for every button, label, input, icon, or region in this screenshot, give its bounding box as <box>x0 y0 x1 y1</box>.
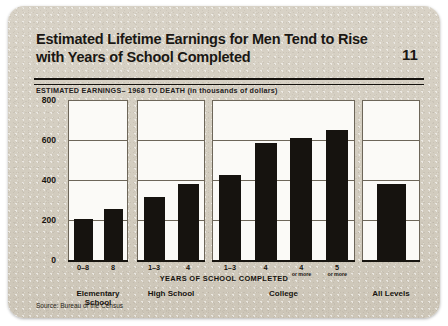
y-axis-tick-label: 400 <box>30 175 56 185</box>
bar-chart-plot: 02004006008000–881–341–344or more5or mor… <box>8 6 440 318</box>
grid-line <box>212 100 355 101</box>
x-axis-baseline <box>212 260 355 262</box>
bar-category-label: 1–3 <box>212 264 248 272</box>
bar-category-label: 1–3 <box>137 264 171 272</box>
bar <box>144 197 165 260</box>
bar <box>178 184 199 260</box>
group-label: Elementary School <box>68 289 128 307</box>
bar <box>326 130 348 260</box>
x-axis-baseline <box>137 260 205 262</box>
grid-line <box>137 140 205 141</box>
grid-line <box>362 140 420 141</box>
bar-category-label: 0–8 <box>68 264 98 272</box>
bar-category-label: 4 <box>248 264 284 272</box>
bar <box>255 143 277 260</box>
grid-line <box>137 180 205 181</box>
bar <box>104 209 123 260</box>
bar <box>290 138 312 260</box>
grid-line <box>68 100 128 101</box>
group-label: High School <box>137 289 205 298</box>
grid-line <box>362 100 420 101</box>
group-label: All Levels <box>362 289 420 298</box>
grid-line <box>68 140 128 141</box>
bar <box>74 219 93 260</box>
bar-category-label: 8 <box>98 264 128 272</box>
x-axis-title: YEARS OF SCHOOL COMPLETED <box>8 274 440 283</box>
y-axis-tick-label: 200 <box>30 215 56 225</box>
y-axis-tick-label: 0 <box>30 255 56 265</box>
y-axis-tick-label: 600 <box>30 135 56 145</box>
bar <box>219 175 241 260</box>
bar <box>377 184 406 260</box>
grid-line <box>68 180 128 181</box>
grid-line <box>137 100 205 101</box>
group-label: College <box>212 289 355 298</box>
x-axis-baseline <box>68 260 128 262</box>
y-axis-tick-label: 800 <box>30 95 56 105</box>
x-axis-baseline <box>362 260 420 262</box>
bar-category-label: 4 <box>171 264 205 272</box>
chart-card: Estimated Lifetime Earnings for Men Tend… <box>8 6 440 318</box>
grid-line <box>362 180 420 181</box>
